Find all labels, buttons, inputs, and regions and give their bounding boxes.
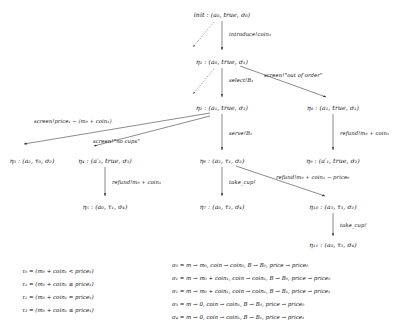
node-eta8: η₈ : (a₁, true, σ₁) <box>307 104 359 111</box>
sigma-definition-3: σ₃ = m → 0, coin → coin₁, B → B₀, price … <box>172 301 304 307</box>
node-eta3: η₃ : (a₂, τ₀, σ₂) <box>10 157 55 164</box>
edge-label-refund-price: refund!m₀ + coin₁ − price₀ <box>276 174 349 180</box>
node-eta1: η₁ : (a₀, true, σ₁) <box>196 58 248 65</box>
tau-definition-0: τ₀ = (m₀ + coin₁ < price₁) <box>22 268 94 274</box>
node-eta6: η₆ : (a₃, τ₁, σ₂) <box>200 157 245 164</box>
edge-label-out-of-order: screen!“out of order” <box>264 72 323 78</box>
edge-label-select: select!B₁ <box>229 77 253 83</box>
sigma-definition-4: σ₄ = m → 0, coin → coin₁, B → B₁, price … <box>172 314 304 320</box>
node-eta10: η₁₀ : (a₃, τ₃, σ₂) <box>309 203 356 210</box>
tau-definition-1: τ₁ = (m₀ + coin₁ ≥ price₁) <box>22 281 94 287</box>
edge-label-take-cup-1: take_cup! <box>229 179 256 185</box>
node-eta5: η₅ : (a₀, τ₁, σ₄) <box>83 203 128 210</box>
edge-label-take-cup-2: take_cup! <box>340 222 367 228</box>
edge-label-refund-left: refund!m₀ + coin₁ <box>112 179 161 185</box>
node-eta11: η₁₁ : (a₀, τ₃, σ₄) <box>309 241 356 248</box>
edge-label-no-cups: screen!“no cups” <box>93 138 140 144</box>
node-eta2: η₂ : (a₁, true, σ₁) <box>196 104 248 111</box>
node-eta7: η₇ : (a₀, τ₂, σ₄) <box>200 203 245 210</box>
edge-label-serve: serve!B₁ <box>229 130 252 136</box>
node-init: init : (a₀, true, σ₀) <box>194 11 250 18</box>
tau-definition-3: τ₃ = (m₀ + coin₁ ≤ price₁) <box>22 307 94 313</box>
edge-label-introduce: introduce!coin₁ <box>229 31 271 37</box>
sigma-definition-0: σ₀ = m → m₀, coin → coin₀, B → B₀, price… <box>172 262 308 268</box>
edge-label-refund-right: refund!m₀ + coin₁ <box>340 130 389 136</box>
sigma-definition-2: σ₂ = m → m₀ + coin₁, coin → coin₁, B → B… <box>172 288 330 294</box>
node-eta9: η₉ : (a′₁, true, σ₂) <box>306 157 359 164</box>
node-eta4: η₄ : (a′₂, true, σ₃) <box>78 157 131 164</box>
sigma-definition-1: σ₁ = m → m₀ + coin₁, coin → coin₁, B → B… <box>172 275 330 281</box>
tau-definition-2: τ₂ = (m₀ + coin₁ = price₁) <box>22 294 94 300</box>
edge-label-price-diff: screen!price₁ − (m₀ + coin₁) <box>34 118 112 124</box>
